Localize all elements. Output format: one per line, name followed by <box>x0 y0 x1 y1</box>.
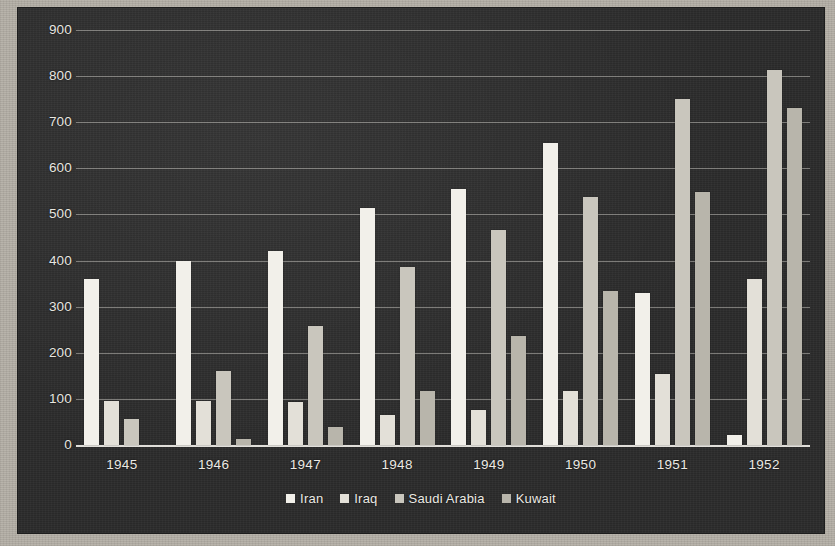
x-axis-tick-label: 1950 <box>535 455 627 477</box>
bar[interactable] <box>675 99 690 445</box>
bar[interactable] <box>268 251 283 445</box>
legend-label: Iraq <box>354 492 377 505</box>
bar-group <box>443 8 535 445</box>
legend-label: Saudi Arabia <box>409 492 485 505</box>
legend-item[interactable]: Kuwait <box>502 492 556 505</box>
bar-group <box>260 8 352 445</box>
bar[interactable] <box>360 208 375 445</box>
bar[interactable] <box>491 230 506 445</box>
x-axis: 19451946194719481949195019511952 <box>76 455 810 477</box>
bar[interactable] <box>747 279 762 445</box>
bar[interactable] <box>511 336 526 445</box>
legend-swatch-icon <box>395 494 404 503</box>
bar[interactable] <box>583 197 598 445</box>
bar-group <box>718 8 810 445</box>
y-axis-tick-label: 900 <box>26 23 72 37</box>
bar[interactable] <box>124 419 139 445</box>
bar-group <box>627 8 719 445</box>
legend-item[interactable]: Saudi Arabia <box>395 492 485 505</box>
bar[interactable] <box>216 371 231 445</box>
chart-legend: IranIraqSaudi ArabiaKuwait <box>18 492 824 505</box>
y-axis-tick-label: 400 <box>26 254 72 268</box>
bar-group <box>168 8 260 445</box>
bars-container <box>76 8 810 445</box>
bar[interactable] <box>84 279 99 445</box>
x-axis-tick-label: 1949 <box>443 455 535 477</box>
y-axis-tick-label: 700 <box>26 115 72 129</box>
bar[interactable] <box>236 439 251 445</box>
bar[interactable] <box>288 402 303 445</box>
bar[interactable] <box>451 189 466 445</box>
legend-item[interactable]: Iraq <box>340 492 377 505</box>
bar[interactable] <box>727 435 742 445</box>
bar[interactable] <box>695 192 710 445</box>
bar[interactable] <box>420 391 435 445</box>
y-axis: 0100200300400500600700800900 <box>24 8 72 533</box>
bar[interactable] <box>767 70 782 445</box>
bar[interactable] <box>196 401 211 445</box>
bar[interactable] <box>176 261 191 445</box>
y-axis-tick-label: 100 <box>26 392 72 406</box>
bar[interactable] <box>635 293 650 445</box>
bar-group <box>76 8 168 445</box>
bar[interactable] <box>543 143 558 445</box>
x-axis-tick-label: 1945 <box>76 455 168 477</box>
x-axis-tick-label: 1952 <box>718 455 810 477</box>
bar[interactable] <box>603 291 618 445</box>
x-axis-tick-label: 1948 <box>351 455 443 477</box>
bar-group <box>351 8 443 445</box>
y-axis-tick-label: 500 <box>26 208 72 222</box>
y-axis-tick-label: 800 <box>26 69 72 83</box>
bar[interactable] <box>655 374 670 445</box>
y-axis-tick-label: 200 <box>26 346 72 360</box>
bar[interactable] <box>471 410 486 445</box>
bar[interactable] <box>380 415 395 445</box>
legend-swatch-icon <box>340 494 349 503</box>
x-axis-tick-label: 1947 <box>260 455 352 477</box>
legend-swatch-icon <box>286 494 295 503</box>
bar[interactable] <box>787 108 802 445</box>
bar-chart: 0100200300400500600700800900 19451946194… <box>18 8 824 533</box>
legend-label: Kuwait <box>516 492 556 505</box>
y-axis-tick-label: 600 <box>26 162 72 176</box>
bar[interactable] <box>400 267 415 445</box>
bar-group <box>535 8 627 445</box>
bar[interactable] <box>104 401 119 445</box>
x-axis-tick-label: 1946 <box>168 455 260 477</box>
bar[interactable] <box>328 427 343 445</box>
legend-item[interactable]: Iran <box>286 492 323 505</box>
legend-label: Iran <box>300 492 323 505</box>
axis-baseline <box>76 445 810 447</box>
y-axis-tick-label: 0 <box>26 438 72 452</box>
bar[interactable] <box>563 391 578 445</box>
x-axis-tick-label: 1951 <box>627 455 719 477</box>
y-axis-tick-label: 300 <box>26 300 72 314</box>
plot-area: 0100200300400500600700800900 19451946194… <box>18 8 824 533</box>
screenshot-root: 0100200300400500600700800900 19451946194… <box>0 0 835 546</box>
bar[interactable] <box>308 326 323 445</box>
legend-swatch-icon <box>502 494 511 503</box>
